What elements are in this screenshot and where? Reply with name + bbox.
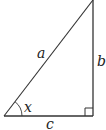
label-b: b [97,53,106,69]
side-a-hypotenuse [4,0,93,116]
angle-x-arc [15,102,22,116]
label-x: x [24,99,32,115]
label-a: a [37,45,45,61]
label-c: c [46,116,54,130]
triangle-figure: a b c x [0,0,106,130]
right-triangle-diagram: a b c x [0,0,106,130]
right-angle-marker [85,108,93,116]
